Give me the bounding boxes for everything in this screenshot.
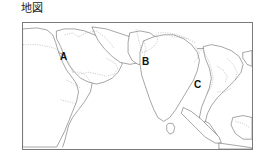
coast-indochina — [199, 45, 243, 126]
coast-java — [219, 143, 252, 149]
coast-south-china — [243, 51, 252, 67]
page-title: 地図 — [21, 2, 44, 16]
region-label-a: A — [60, 52, 67, 62]
region-label-b: B — [142, 57, 149, 67]
map-frame — [22, 22, 253, 150]
map-figure: 地図 — [0, 0, 268, 166]
coast-india — [140, 35, 199, 122]
coastlines — [23, 27, 252, 149]
map-graphic — [23, 23, 252, 149]
region-label-c: C — [194, 80, 201, 90]
coast-sri-lanka — [167, 123, 175, 134]
